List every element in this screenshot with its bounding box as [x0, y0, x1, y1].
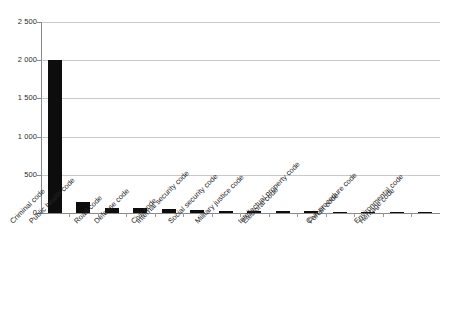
y-axis-tick-label: 1 000 — [1, 133, 37, 141]
bar-chart: 2 500 2 000 1 500 1 000 500 0 — [0, 0, 455, 318]
x-axis-tick-mark — [155, 213, 156, 217]
x-axis-tick-mark — [269, 213, 270, 217]
y-axis-tick-label: 1 500 — [1, 94, 37, 102]
bar-social-security-code[interactable] — [219, 211, 233, 213]
x-axis-tick-mark — [297, 213, 298, 217]
bars-layer — [41, 22, 440, 213]
x-axis-tick-mark — [69, 213, 70, 217]
x-axis-tick-mark — [326, 213, 327, 217]
bar-electoral-code[interactable] — [276, 211, 290, 213]
x-axis-tick-mark — [383, 213, 384, 217]
bar-heritage-code[interactable] — [390, 212, 404, 213]
y-axis-tick-label: 2 000 — [1, 56, 37, 64]
y-axis-labels: 2 500 2 000 1 500 1 000 500 0 — [0, 0, 37, 318]
bar-environmental-code[interactable] — [418, 212, 432, 213]
x-axis-tick-mark — [212, 213, 213, 217]
y-axis-tick-label: 2 500 — [1, 18, 37, 26]
y-axis-tick-label: 500 — [1, 171, 37, 179]
x-axis-tick-mark — [411, 213, 412, 217]
bar-forest-code[interactable] — [333, 212, 347, 213]
x-axis-tick-mark — [126, 213, 127, 217]
